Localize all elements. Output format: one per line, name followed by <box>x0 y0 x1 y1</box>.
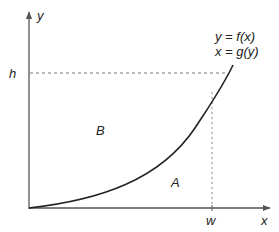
region-a-label: A <box>170 175 180 190</box>
h-label: h <box>9 66 16 81</box>
y-axis-label: y <box>36 8 45 23</box>
x-axis-label: x <box>260 213 268 228</box>
curve-f-of-x <box>29 65 233 208</box>
equation-f: y = f(x) <box>214 29 255 44</box>
integral-area-diagram: y x h w y = f(x) x = g(y) B A <box>0 0 279 232</box>
equation-g: x = g(y) <box>214 44 259 59</box>
w-label: w <box>206 213 217 228</box>
region-b-label: B <box>96 123 105 138</box>
